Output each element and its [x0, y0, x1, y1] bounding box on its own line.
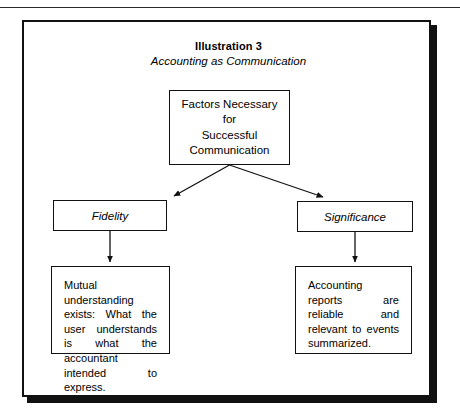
- node-factors-necessary[interactable]: Factors Necessary for Successful Communi…: [169, 90, 290, 165]
- node-factors-necessary-label: Factors Necessary for Successful Communi…: [182, 97, 278, 159]
- node-fidelity[interactable]: Fidelity: [53, 200, 167, 231]
- node-fidelity-detail[interactable]: Mutual understanding exists: What the us…: [51, 266, 170, 354]
- node-fidelity-label: Fidelity: [92, 209, 128, 223]
- figure-title: Illustration 3: [24, 39, 433, 53]
- node-fidelity-detail-label: Mutual understanding exists: What the us…: [64, 278, 157, 395]
- node-significance-detail-label: Accounting reports are reliable and rele…: [308, 278, 399, 351]
- node-significance[interactable]: Significance: [297, 201, 413, 232]
- page-top-rule: [0, 7, 460, 8]
- node-significance-detail[interactable]: Accounting reports are reliable and rele…: [295, 266, 412, 354]
- illustration-frame: Illustration 3 Accounting as Communicati…: [22, 20, 431, 397]
- figure-title-block: Illustration 3 Accounting as Communicati…: [24, 39, 433, 69]
- node-significance-label: Significance: [324, 210, 386, 224]
- figure-subtitle: Accounting as Communication: [24, 53, 433, 69]
